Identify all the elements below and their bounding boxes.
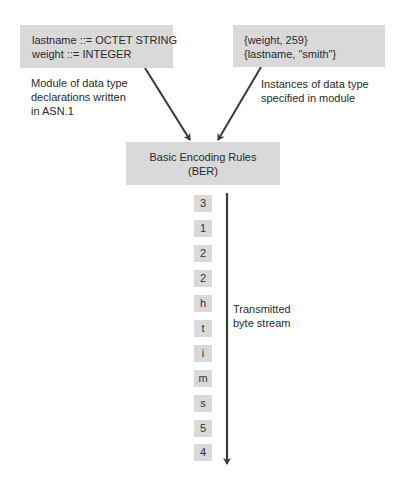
instance-line: {lastname, "smith"} xyxy=(244,47,385,61)
ber-encoder-box: Basic Encoding Rules (BER) xyxy=(126,142,280,185)
declaration-line: lastname ::= OCTET STRING xyxy=(32,33,173,47)
byte-stream-caption: Transmitted byte stream xyxy=(233,302,291,330)
byte-cell: t xyxy=(194,320,212,337)
byte-cell: 5 xyxy=(194,420,212,437)
byte-cell: 1 xyxy=(194,220,212,237)
byte-cell: 4 xyxy=(194,444,212,461)
instances-caption: Instances of data type specified in modu… xyxy=(261,77,369,105)
byte-cell: i xyxy=(194,345,212,362)
declarations-caption: Module of data type declarations written… xyxy=(31,76,128,118)
ber-abbrev: (BER) xyxy=(126,164,280,178)
byte-cell: s xyxy=(194,395,212,412)
instances-to-ber-arrow xyxy=(218,67,261,140)
data-instances-box: {weight, 259} {lastname, "smith"} xyxy=(233,25,385,67)
byte-cell: 2 xyxy=(194,270,212,287)
byte-cell: m xyxy=(194,370,212,387)
declarations-to-ber-arrow xyxy=(145,68,190,140)
byte-cell: h xyxy=(194,295,212,312)
byte-cell: 3 xyxy=(194,195,212,212)
byte-cell: 2 xyxy=(194,245,212,262)
ber-title: Basic Encoding Rules xyxy=(126,150,280,164)
asn1-declarations-box: lastname ::= OCTET STRING weight ::= INT… xyxy=(20,25,173,68)
instance-line: {weight, 259} xyxy=(244,33,385,47)
declaration-line: weight ::= INTEGER xyxy=(32,47,173,61)
